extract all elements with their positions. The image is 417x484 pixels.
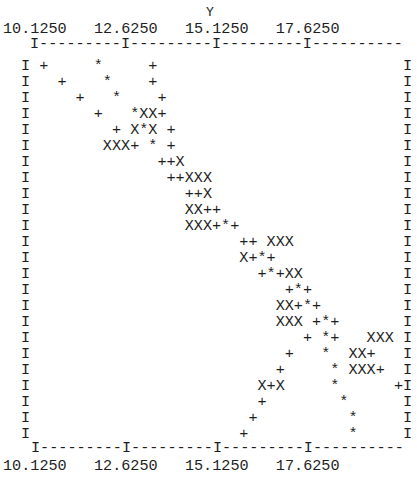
plot-row: I XXX+ * + I xyxy=(21,138,412,154)
plot-row: I XXX +*+ I xyxy=(21,314,412,330)
plot-row: I +*+ I xyxy=(21,282,412,298)
plot-row: I XXX+*+ I xyxy=(21,218,412,234)
top-axis-line: I---------I---------I---------I---------… xyxy=(30,36,403,52)
plot-row: I + * I xyxy=(21,394,412,410)
plot-row: I ++ XXX I xyxy=(21,234,412,250)
plot-row: I XX++ I xyxy=(21,202,412,218)
plot-row: I + * I xyxy=(21,410,412,426)
plot-row: I ++X I xyxy=(21,154,412,170)
plot-row: I X+X * +I xyxy=(21,378,412,394)
plot-row: I + *+ XXX I xyxy=(21,330,412,346)
plot-row: I + * XXX+ I xyxy=(21,362,412,378)
plot-row: I + * + I xyxy=(21,74,412,90)
plot-row: I + *XX+ I xyxy=(21,106,412,122)
plot-row: I ++X I xyxy=(21,186,412,202)
plot-row: I ++XXX I xyxy=(21,170,412,186)
line-printer-plot: Y 10.1250 12.6250 15.1250 17.6250 I-----… xyxy=(0,0,417,484)
bottom-axis-line: I---------I---------I---------I---------… xyxy=(31,440,404,456)
plot-row: I XX+*+ I xyxy=(21,298,412,314)
plot-row: I + * + I xyxy=(21,90,412,106)
x-axis-title: Y xyxy=(206,5,214,21)
plot-row: I X+*+ I xyxy=(21,250,412,266)
plot-row: I + * + I xyxy=(21,58,412,74)
plot-row: I + * XX+ I xyxy=(21,346,412,362)
bottom-tick-labels: 10.1250 12.6250 15.1250 17.6250 xyxy=(3,458,340,474)
plot-row: I +*+XX I xyxy=(21,266,412,282)
plot-row: I + X*X + I xyxy=(21,122,412,138)
